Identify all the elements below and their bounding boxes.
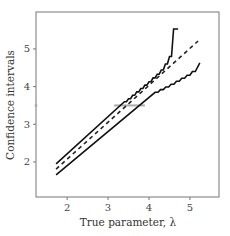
x-tick-label: 4	[146, 202, 152, 213]
line-upper-bound	[56, 29, 178, 164]
data-series	[56, 29, 200, 175]
x-tick-label: 5	[187, 202, 193, 213]
annotations	[36, 104, 145, 107]
line-lower-bound	[56, 63, 200, 175]
y-tick-label: 5	[24, 43, 30, 54]
y-tick-label: 2	[24, 156, 30, 167]
chart: 23452345 True parameter, λ Confidence in…	[0, 0, 230, 236]
y-tick-label: 3	[24, 119, 30, 130]
x-tick-label: 2	[64, 202, 70, 213]
y-tick-label: 4	[24, 81, 30, 92]
x-axis-label: True parameter, λ	[80, 216, 177, 228]
y-axis-label: Confidence intervals	[4, 50, 16, 160]
x-tick-label: 3	[105, 202, 111, 213]
